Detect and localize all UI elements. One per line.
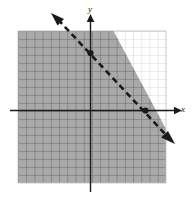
y-axis-label: y <box>88 5 92 14</box>
coordinate-plane-svg <box>0 0 196 202</box>
y-axis-arrowhead <box>87 14 95 22</box>
y-intercept-point <box>87 50 93 56</box>
graph-figure: x y <box>0 0 196 202</box>
x-axis-label: x <box>181 105 185 114</box>
x-intercept-point <box>142 107 148 113</box>
